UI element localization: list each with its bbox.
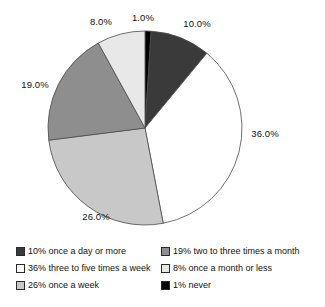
legend-item-once-a-week: 26% once a week (16, 278, 151, 293)
slice-value-label-never: 1.0% (132, 12, 154, 23)
legend-swatch-icon-three-to-five-times-a-week (16, 264, 25, 273)
slice-value-label-two-to-three-times-a-month: 19.0% (21, 79, 48, 90)
legend-label-never: 1% never (173, 280, 211, 291)
legend-swatch-icon-once-a-day-or-more (16, 247, 25, 256)
legend-label-once-a-day-or-more: 10% once a day or more (28, 246, 126, 257)
pie-chart-figure: 1.0% 10.0% 36.0% 26.0% 19.0% 8.0% 10% on… (0, 0, 325, 307)
legend-column-left: 10% once a day or more 36% three to five… (16, 244, 151, 295)
legend-item-never: 1% never (161, 278, 300, 293)
slice-value-label-once-a-month-or-less: 8.0% (90, 16, 112, 27)
legend-label-three-to-five-times-a-week: 36% three to five times a week (28, 263, 151, 274)
legend-swatch-icon-two-to-three-times-a-month (161, 247, 170, 256)
legend-item-three-to-five-times-a-week: 36% three to five times a week (16, 261, 151, 276)
legend-label-once-a-week: 26% once a week (28, 280, 99, 291)
chart-legend: 10% once a day or more 36% three to five… (0, 244, 325, 296)
pie-slices-group (48, 31, 242, 225)
legend-item-two-to-three-times-a-month: 19% two to three times a month (161, 244, 300, 259)
legend-swatch-icon-never (161, 281, 170, 290)
pie-chart-svg (0, 0, 325, 240)
slice-value-label-three-to-five-times-a-week: 36.0% (251, 128, 278, 139)
slice-value-label-once-a-week: 26.0% (82, 211, 109, 222)
legend-swatch-icon-once-a-month-or-less (161, 264, 170, 273)
legend-column-right: 19% two to three times a month 8% once a… (161, 244, 300, 295)
slice-value-label-once-a-day-or-more: 10.0% (183, 18, 210, 29)
legend-label-two-to-three-times-a-month: 19% two to three times a month (173, 246, 300, 257)
legend-swatch-icon-once-a-week (16, 281, 25, 290)
pie-plot-area: 1.0% 10.0% 36.0% 26.0% 19.0% 8.0% (0, 0, 325, 240)
legend-item-once-a-day-or-more: 10% once a day or more (16, 244, 151, 259)
legend-label-once-a-month-or-less: 8% once a month or less (173, 263, 272, 274)
legend-item-once-a-month-or-less: 8% once a month or less (161, 261, 300, 276)
